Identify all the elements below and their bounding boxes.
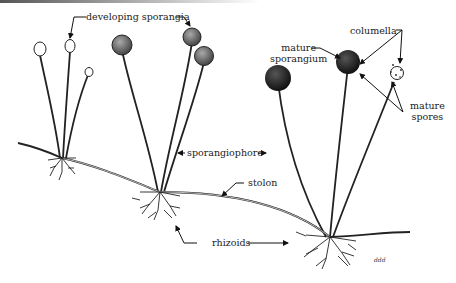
stolon-left-tail <box>18 143 62 158</box>
label-rhizoids: rhizoids <box>212 237 250 248</box>
stolon-1 <box>62 158 160 192</box>
columella-icon <box>391 67 404 80</box>
sporangium <box>112 35 132 55</box>
stolon-right-tail <box>330 232 410 237</box>
label-line: sporangium <box>270 53 327 64</box>
label-line: mature <box>410 100 445 111</box>
developing-sporangium <box>34 42 46 56</box>
label-stolon: stolon <box>248 177 277 188</box>
developing-sporangium <box>65 40 75 53</box>
sporangium <box>195 47 214 66</box>
label-line: mature <box>270 42 327 53</box>
mature-sporangium <box>265 65 291 91</box>
diagram-canvas: ddd developing sporangia mature sporangi… <box>0 0 456 283</box>
label-developing-sporangia: developing sporangia <box>86 11 190 22</box>
artist-signature: ddd <box>374 256 386 263</box>
mature-sporangium <box>336 50 360 74</box>
rhizoids-icon <box>48 158 356 269</box>
label-sporangiophore: sporangiophore <box>187 147 263 158</box>
label-line: spores <box>410 111 445 122</box>
label-mature-spores: mature spores <box>410 100 445 122</box>
stolon-2 <box>160 192 330 237</box>
developing-sporangium <box>85 68 93 77</box>
sporangium <box>183 28 201 46</box>
label-columella: columella <box>350 25 397 36</box>
label-mature-sporangium: mature sporangium <box>270 42 327 64</box>
